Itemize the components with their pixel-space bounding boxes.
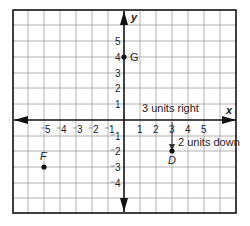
svg-text:4: 4 <box>185 124 191 135</box>
svg-text:⁻2: ⁻2 <box>88 124 99 135</box>
svg-text:F: F <box>40 150 48 162</box>
svg-text:1: 1 <box>115 99 121 110</box>
svg-text:D: D <box>168 154 176 166</box>
svg-text:⁻4: ⁻4 <box>110 178 121 189</box>
x-axis-left-arrow-icon <box>14 116 28 124</box>
svg-text:5: 5 <box>201 124 207 135</box>
svg-text:⁻2: ⁻2 <box>110 146 121 157</box>
x-axis <box>14 116 236 124</box>
x-axis-right-arrow-icon <box>222 116 236 124</box>
svg-text:1: 1 <box>137 124 143 135</box>
svg-text:⁻3: ⁻3 <box>72 124 83 135</box>
svg-text:⁻3: ⁻3 <box>110 162 121 173</box>
annotation-2-units-down: 2 units down <box>178 136 240 148</box>
svg-text:3: 3 <box>115 68 121 79</box>
y-axis-up-arrow-icon <box>120 11 128 25</box>
svg-text:⁻4: ⁻4 <box>56 124 67 135</box>
svg-text:2: 2 <box>153 124 159 135</box>
x-axis-label: x <box>225 104 233 116</box>
svg-text:⁻5: ⁻5 <box>40 124 51 135</box>
annotation-3-units-right: 3 units right <box>142 102 199 114</box>
svg-text:5: 5 <box>115 36 121 47</box>
y-tick-labels: 5 4 3 2 1 ⁻1 ⁻2 ⁻3 ⁻4 <box>110 36 121 189</box>
svg-text:4: 4 <box>115 52 121 63</box>
svg-text:2: 2 <box>115 83 121 94</box>
y-axis-label: y <box>130 11 138 23</box>
coordinate-grid-diagram: y x ⁻5 ⁻4 ⁻3 ⁻2 ⁻1 1 2 3 4 5 5 4 3 2 1 ⁻… <box>0 0 250 226</box>
svg-text:⁻1: ⁻1 <box>110 131 121 142</box>
y-axis-down-arrow-icon <box>120 198 128 212</box>
svg-text:G: G <box>130 51 139 63</box>
